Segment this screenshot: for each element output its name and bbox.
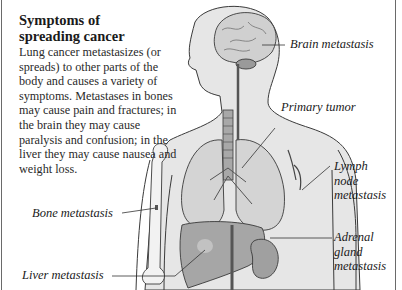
liver-tumor (197, 239, 213, 253)
lymph-line-1: Lymph (334, 159, 386, 174)
lymph-line-3: metastasis (334, 188, 386, 203)
panel-title: Symptoms of spreading cancer (19, 12, 179, 44)
adrenal-line-1: Adrenal (334, 230, 386, 245)
kidney (251, 239, 278, 278)
bone-lesion (155, 205, 158, 210)
adrenal-line-3: metastasis (334, 259, 386, 274)
trachea (223, 110, 233, 180)
label-lymph-node-metastasis: Lymph node metastasis (334, 159, 386, 203)
label-adrenal-gland-metastasis: Adrenal gland metastasis (334, 230, 386, 274)
label-brain-metastasis: Brain metastasis (290, 37, 374, 52)
title-line-1: Symptoms of (19, 12, 179, 28)
adrenal-line-2: gland (334, 245, 386, 260)
label-bone-metastasis: Bone metastasis (32, 206, 113, 221)
title-line-2: spreading cancer (19, 28, 179, 44)
label-liver-metastasis: Liver metastasis (22, 268, 104, 283)
diagram-root: Symptoms of spreading cancer Lung cancer… (0, 0, 402, 290)
panel-description: Lung cancer metastasizes (or spreads) to… (19, 45, 181, 176)
label-primary-tumor: Primary tumor (281, 100, 356, 115)
lymph-line-2: node (334, 174, 386, 189)
